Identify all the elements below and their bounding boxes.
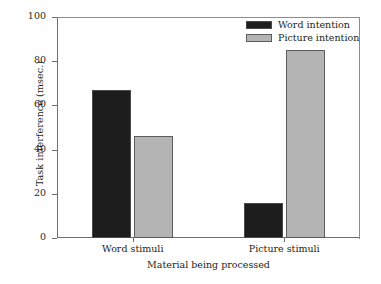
legend-entry-picture-intention: Picture intention: [246, 32, 359, 43]
legend-label-word-intention: Word intention: [278, 20, 350, 30]
legend-entry-word-intention: Word intention: [246, 19, 359, 30]
legend-label-picture-intention: Picture intention: [278, 33, 359, 43]
x-category-label-picture: Picture stimuli: [224, 243, 344, 254]
y-tick-mark-0: [52, 238, 57, 239]
x-category-label-word: Word stimuli: [73, 243, 193, 254]
legend-swatch-word-intention: [246, 21, 272, 29]
x-tick-mark-picture: [284, 238, 285, 242]
x-tick-mark-word: [133, 238, 134, 242]
y-axis-title: Task interference (msec.): [34, 14, 45, 234]
x-axis-title: Material being processed: [57, 259, 360, 270]
bar-word-intention-word-stimuli: [92, 90, 131, 238]
chart-legend: Word intention Picture intention: [246, 19, 359, 45]
y-tick-label-100: 100: [28, 10, 46, 21]
y-tick-label-40: 40: [34, 143, 46, 154]
legend-swatch-picture-intention: [246, 34, 272, 42]
y-tick-label-80: 80: [34, 54, 46, 65]
bar-chart-figure: Task interference (msec.) 020406080100 W…: [0, 0, 381, 284]
y-tick-label-0: 0: [40, 231, 46, 242]
bar-word-intention-picture-stimuli: [244, 203, 283, 238]
y-tick-label-20: 20: [34, 187, 46, 198]
bar-picture-intention-word-stimuli: [134, 136, 173, 238]
bars-layer: [57, 17, 360, 238]
bar-picture-intention-picture-stimuli: [286, 50, 325, 238]
y-tick-label-60: 60: [34, 98, 46, 109]
